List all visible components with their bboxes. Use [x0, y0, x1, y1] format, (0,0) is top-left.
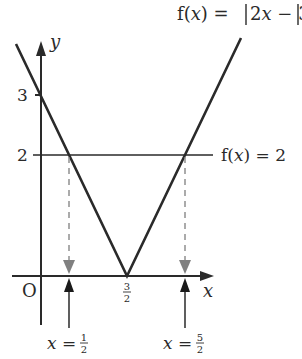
arrow-up-icon — [64, 278, 74, 292]
x-axis-label: x — [203, 280, 213, 301]
svg-text:x =: x = — [163, 333, 192, 353]
svg-text:3: 3 — [124, 281, 130, 292]
tick-label-x-three-halves: 3 2 — [123, 281, 131, 304]
tick-label-y3: 3 — [17, 85, 28, 105]
tick-label-y2: 2 — [17, 145, 28, 165]
const-function-label: f(x) = 2 — [221, 145, 286, 165]
origin-label: O — [22, 280, 37, 301]
svg-text:1: 1 — [81, 332, 87, 343]
abs-function-label: f(x) = 2x − 3 — [177, 3, 302, 25]
svg-text:2: 2 — [197, 344, 203, 355]
abs-function-graph — [16, 38, 241, 276]
arrow-down-icon — [179, 260, 191, 274]
solution-label-x-five-halves: x = 5 2 — [163, 332, 204, 355]
svg-text:x =: x = — [47, 333, 76, 353]
svg-text:2: 2 — [81, 344, 87, 355]
solution-label-x-half: x = 1 2 — [47, 332, 88, 355]
y-axis-arrow-icon — [36, 41, 46, 56]
y-axis-label: y — [49, 31, 61, 52]
svg-text:2x − 3: 2x − 3 — [250, 3, 302, 24]
arrow-down-icon — [63, 260, 75, 274]
svg-text:f(x) =: f(x) = — [177, 3, 229, 24]
svg-text:5: 5 — [197, 332, 203, 343]
svg-text:2: 2 — [124, 293, 130, 304]
arrow-up-icon — [180, 278, 190, 292]
graph: y x O 3 2 3 2 f(x) = 2x − 3 f(x) = 2 x =… — [0, 0, 302, 359]
